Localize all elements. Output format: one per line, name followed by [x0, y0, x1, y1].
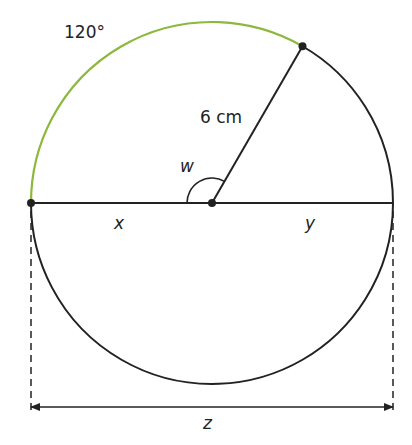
segment-y-label: y [304, 213, 316, 233]
segment-x-label: x [113, 213, 125, 233]
arc-endpoint [299, 42, 307, 50]
highlighted-arc [31, 22, 303, 203]
arc-angle-label: 120° [64, 22, 105, 42]
angle-w-label: w [180, 156, 194, 176]
center-point [208, 199, 216, 207]
diameter-z-label: z [202, 413, 213, 433]
circle-outline [31, 46, 393, 384]
circle-diagram: 120° 6 cm w x y z [0, 0, 412, 445]
left-endpoint [27, 199, 35, 207]
radius-length-label: 6 cm [200, 107, 242, 127]
